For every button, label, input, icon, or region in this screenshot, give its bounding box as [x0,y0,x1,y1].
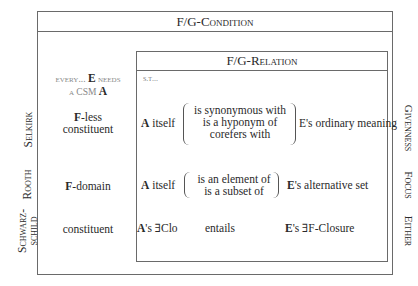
f-g-condition-title: F/G-Condition [37,11,393,32]
right-brace-icon [290,103,296,145]
f-domain: F-domain [44,180,132,192]
row-label-selkirk: Selkirk [23,100,34,160]
header-text: every... [55,74,85,84]
such-that-label: s.t... [143,74,158,83]
object-cell: E's ∃F-Closure [285,222,354,235]
header-e: E [88,72,96,84]
bold-f: F [74,111,81,123]
bold-e: E [285,222,293,234]
category-focus: Focus [403,162,415,208]
author-text: schild [27,217,39,246]
header-text: needs [98,74,121,84]
subject-cell: A itself [141,179,175,192]
subject-cell: A itself [141,117,175,130]
f-g-relation-title: F/G-Relation [136,51,388,71]
row-label-schwarzschild: Schwarz- schild [17,201,39,261]
header-text: a CSM [69,87,97,97]
constituent: constituent [44,223,132,235]
column-header: every... E needs a CSM A [44,72,132,98]
relation-entails: entails [205,222,235,235]
header-a: A [99,85,107,97]
relation-item: is an element of [189,173,279,185]
relation-item: corefers with [186,128,294,140]
object-cell: E's ordinary meaning [299,117,397,130]
relation-item: is a hyponym of [186,116,294,128]
cell-text: itself [149,179,175,191]
cell-text: -less [81,111,102,123]
category-givenness: Givenness [403,93,415,163]
cell-text: 's alternative set [295,179,369,191]
cell-text: -domain [72,180,110,192]
relation-item: is a subset of [189,185,279,197]
relation-list: is synonymous with is a hyponym of coref… [186,104,294,140]
cell-text: 's ∃F-Closure [293,222,355,234]
f-less-constituent: F-less constituent [44,111,132,135]
cell-text: itself [149,117,175,129]
category-either: Either [403,207,415,255]
right-brace-icon [273,172,279,198]
subject-cell: A's ∃Clo [137,222,178,235]
object-cell: E's alternative set [287,179,368,192]
cell-text: 's ∃Clo [145,222,177,234]
cell-text: constituent [63,123,113,135]
relation-list: is an element of is a subset of [189,173,279,197]
relation-item: is synonymous with [186,104,294,116]
bold-e: E [287,179,295,191]
